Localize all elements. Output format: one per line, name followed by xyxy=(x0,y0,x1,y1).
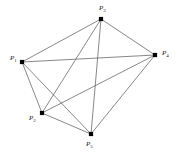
graph-edge-p3-p4 xyxy=(101,19,155,55)
graph-edge-p4-p5 xyxy=(91,55,155,134)
graph-node-label-p2: P2 xyxy=(29,115,36,122)
graph-node-label-p4: P4 xyxy=(162,50,169,57)
label-subscript: 5 xyxy=(90,144,93,149)
graph-edge-p1-p4 xyxy=(22,55,155,62)
label-subscript: 2 xyxy=(33,118,36,123)
graph-node-label-p3: P3 xyxy=(99,5,106,12)
graph-node-p4 xyxy=(153,53,157,57)
graph-node-p3 xyxy=(99,17,103,21)
graph-edge-p2-p5 xyxy=(42,113,91,134)
graph-node-p5 xyxy=(89,132,93,136)
node-layer xyxy=(20,17,157,136)
label-subscript: 1 xyxy=(14,58,17,63)
graph-edge-p2-p3 xyxy=(42,19,101,113)
graph-node-p2 xyxy=(40,111,44,115)
label-subscript: 4 xyxy=(166,53,169,58)
graph-node-label-p5: P5 xyxy=(86,141,93,148)
graph-edge-p1-p2 xyxy=(22,62,42,113)
graph-edge-p1-p3 xyxy=(22,19,101,62)
graph-edge-p2-p4 xyxy=(42,55,155,113)
edge-layer xyxy=(22,19,155,134)
graph-node-label-p1: P1 xyxy=(10,55,17,62)
graph-figure: P1P2P3P4P5 xyxy=(0,0,179,167)
graph-node-p1 xyxy=(20,60,24,64)
label-subscript: 3 xyxy=(103,8,106,13)
graph-edge-p3-p5 xyxy=(91,19,101,134)
